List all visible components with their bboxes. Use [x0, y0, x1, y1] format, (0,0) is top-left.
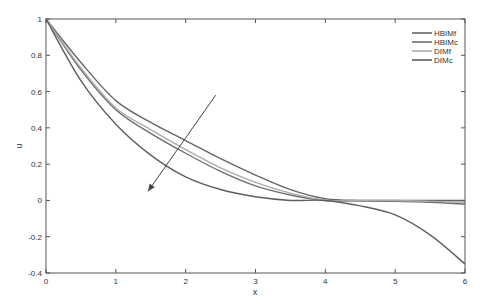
- x-tick-label: 2: [183, 277, 188, 286]
- y-tick-label: 1: [38, 15, 43, 24]
- series-line-hbimf: [46, 19, 465, 201]
- x-tick-label: 5: [393, 277, 398, 286]
- data-series: [46, 19, 465, 264]
- legend-label: HBIMc: [434, 38, 458, 47]
- y-tick-label: 0: [38, 196, 43, 205]
- legend: HBIMfHBIMcDIMfDIMc: [412, 29, 458, 65]
- arrow-shaft: [148, 95, 216, 191]
- x-axis-label: x: [253, 287, 258, 297]
- axes: 0123456-0.4-0.200.20.40.60.81: [28, 15, 468, 286]
- x-tick-label: 1: [114, 277, 119, 286]
- x-tick-label: 6: [463, 277, 468, 286]
- y-axis-label: u: [14, 143, 24, 148]
- y-tick-label: 0.2: [31, 160, 43, 169]
- y-tick-label: 0.6: [31, 88, 43, 97]
- chart-canvas: 0123456-0.4-0.200.20.40.60.81 HBIMfHBIMc…: [0, 0, 489, 308]
- line-chart: 0123456-0.4-0.200.20.40.60.81 HBIMfHBIMc…: [0, 0, 489, 308]
- x-tick-label: 4: [323, 277, 328, 286]
- y-tick-label: 0.8: [31, 51, 43, 60]
- legend-label: HBIMf: [434, 29, 457, 38]
- series-line-dimc: [46, 19, 465, 264]
- legend-label: DIMc: [434, 56, 453, 65]
- series-line-hbimc: [46, 19, 465, 204]
- trend-arrow: [148, 95, 216, 191]
- x-tick-label: 3: [253, 277, 258, 286]
- legend-label: DIMf: [434, 47, 452, 56]
- arrow-head-icon: [148, 184, 155, 192]
- y-tick-label: -0.4: [28, 269, 42, 278]
- plot-frame: [46, 19, 465, 273]
- y-tick-label: -0.2: [28, 233, 42, 242]
- y-tick-label: 0.4: [31, 124, 43, 133]
- x-tick-label: 0: [44, 277, 49, 286]
